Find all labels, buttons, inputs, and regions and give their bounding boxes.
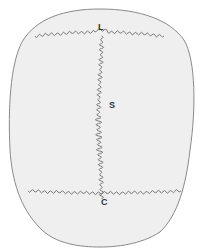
label-sagittal: S [109,100,115,110]
label-lambdoid: L [98,22,104,32]
skull-outline [9,9,194,247]
label-coronal: C [101,197,108,207]
skull-diagram: L S C [0,0,201,249]
